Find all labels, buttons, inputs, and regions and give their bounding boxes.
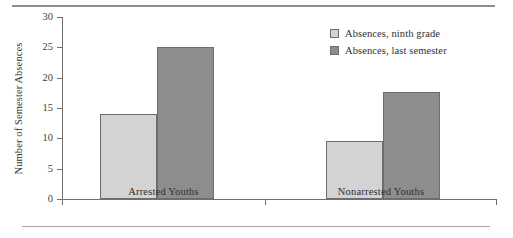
y-tick-15: 15 bbox=[57, 108, 62, 109]
y-axis-title: Number of Semester Absences bbox=[12, 17, 26, 200]
legend: Absences, ninth grade Absences, last sem… bbox=[330, 26, 502, 60]
figure-container: Number of Semester Absences 0 5 10 15 20… bbox=[0, 0, 513, 238]
y-tick-label-5: 5 bbox=[48, 161, 53, 176]
y-axis-line bbox=[62, 17, 63, 200]
y-tick-label-30: 30 bbox=[43, 9, 54, 24]
x-category-label-nonarrested: Nonarrested Youths bbox=[265, 186, 497, 197]
legend-label-ninth-grade: Absences, ninth grade bbox=[345, 28, 440, 40]
legend-label-last-semester: Absences, last semester bbox=[345, 45, 447, 57]
legend-item-last-semester: Absences, last semester bbox=[330, 43, 502, 58]
top-divider-rule bbox=[12, 5, 495, 7]
x-tick-left bbox=[62, 200, 63, 205]
legend-swatch-last-semester bbox=[330, 46, 339, 55]
y-tick-label-15: 15 bbox=[43, 100, 54, 115]
x-tick-middle bbox=[265, 200, 266, 205]
y-tick-10: 10 bbox=[57, 138, 62, 139]
y-tick-30: 30 bbox=[57, 17, 62, 18]
y-tick-20: 20 bbox=[57, 78, 62, 79]
bar-nonarrested-last-semester bbox=[383, 92, 440, 199]
x-category-label-arrested: Arrested Youths bbox=[62, 186, 265, 197]
legend-item-ninth-grade: Absences, ninth grade bbox=[330, 26, 502, 41]
bottom-divider-rule bbox=[22, 226, 490, 227]
x-axis-line bbox=[62, 199, 497, 200]
x-tick-right bbox=[496, 200, 497, 205]
y-tick-label-10: 10 bbox=[43, 130, 54, 145]
y-tick-label-25: 25 bbox=[43, 39, 54, 54]
legend-swatch-ninth-grade bbox=[330, 29, 339, 38]
bar-arrested-last-semester bbox=[157, 47, 214, 199]
y-tick-5: 5 bbox=[57, 169, 62, 170]
y-tick-label-20: 20 bbox=[43, 70, 54, 85]
y-tick-25: 25 bbox=[57, 47, 62, 48]
y-tick-label-0: 0 bbox=[48, 191, 53, 206]
